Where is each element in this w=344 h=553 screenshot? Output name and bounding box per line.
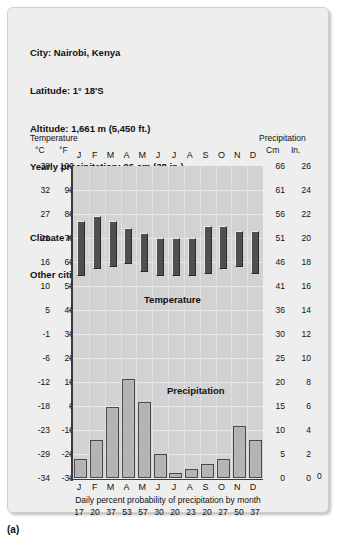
month-label-top: O (214, 150, 228, 160)
inches-tick: 4 (289, 425, 311, 435)
cm-tick: 61 (263, 185, 285, 195)
gridline-vertical (216, 166, 217, 478)
temperature-range-bar (172, 238, 180, 276)
month-label-bottom: M (104, 482, 118, 492)
precipitation-annotation: Precipitation (167, 385, 225, 396)
month-label-top: J (167, 150, 181, 160)
cm-tick: 66 (263, 161, 285, 171)
probability-value: 20 (167, 507, 183, 517)
temperature-range-bar (93, 216, 101, 269)
celsius-tick: 5 (28, 305, 50, 315)
inches-tick: 6 (289, 401, 311, 411)
climograph-panel: City: Nairobi, Kenya Latitude: 1° 18'S A… (7, 7, 329, 513)
gridline-vertical (89, 166, 90, 478)
cm-tick: 10 (263, 425, 285, 435)
probability-value: 20 (199, 507, 215, 517)
precipitation-bar (169, 473, 182, 478)
cm-tick: 5 (263, 449, 285, 459)
axis-tick-left (69, 166, 73, 167)
precipitation-bar (74, 459, 87, 478)
month-label-bottom: J (151, 482, 165, 492)
month-label-top: M (104, 150, 118, 160)
celsius-unit-label: °C (35, 145, 45, 155)
month-label-bottom: F (88, 482, 102, 492)
month-label-top: M (135, 150, 149, 160)
axis-tick-left (69, 358, 73, 359)
temperature-range-bar (109, 221, 117, 267)
precipitation-bar (185, 469, 198, 478)
temperature-range-bar (188, 238, 196, 276)
celsius-tick: 32 (28, 185, 50, 195)
month-label-top: N (230, 150, 244, 160)
cm-tick: 0 (263, 473, 285, 483)
month-label-bottom: J (167, 482, 181, 492)
inches-tick: 2 (289, 449, 311, 459)
gridline-vertical (200, 166, 201, 478)
temperature-range-bar (235, 231, 243, 267)
month-label-bottom: S (199, 482, 213, 492)
probability-value: 57 (135, 507, 151, 517)
celsius-tick: 27 (28, 209, 50, 219)
plot-area (71, 166, 263, 480)
probability-value: 53 (119, 507, 135, 517)
month-label-top: S (199, 150, 213, 160)
axis-tick-left (69, 190, 73, 191)
probability-value: 30 (151, 507, 167, 517)
probability-value: 37 (247, 507, 263, 517)
precipitation-bar (217, 459, 230, 478)
inches-tick: 20 (289, 233, 311, 243)
cm-tick: 25 (263, 353, 285, 363)
probability-value: 27 (215, 507, 231, 517)
left-axis-title: Temperature (30, 133, 78, 143)
celsius-tick: -12 (28, 377, 50, 387)
inches-tick: 26 (289, 161, 311, 171)
temperature-range-bar (140, 233, 148, 271)
month-label-bottom: J (72, 482, 86, 492)
axis-tick-left (69, 334, 73, 335)
celsius-tick: -34 (28, 473, 50, 483)
month-label-top: A (119, 150, 133, 160)
city-line: City: Nairobi, Kenya (30, 47, 254, 60)
cm-tick: 20 (263, 377, 285, 387)
month-label-top: J (72, 150, 86, 160)
cm-tick: 36 (263, 305, 285, 315)
precipitation-bar (90, 440, 103, 478)
axis-tick-left (69, 238, 73, 239)
celsius-tick: -6 (28, 353, 50, 363)
probability-caption: Daily percent probability of precipitati… (8, 495, 328, 505)
cm-tick: 41 (263, 281, 285, 291)
axis-tick-left (69, 214, 73, 215)
temperature-range-bar (156, 238, 164, 276)
figure-label: (a) (7, 524, 19, 535)
inches-tick: 0 (289, 473, 311, 483)
precipitation-bar (138, 402, 151, 478)
gridline-vertical (247, 166, 248, 478)
month-label-bottom: D (246, 482, 260, 492)
inches-tick: 10 (289, 353, 311, 363)
gridline-vertical (184, 166, 185, 478)
gridline-vertical (152, 166, 153, 478)
precipitation-bar (106, 407, 119, 478)
cm-tick: 30 (263, 329, 285, 339)
month-label-top: J (151, 150, 165, 160)
temperature-annotation: Temperature (144, 294, 201, 305)
celsius-tick: 16 (28, 257, 50, 267)
latitude-line: Latitude: 1° 18'S (30, 85, 254, 98)
inches-tick: 24 (289, 185, 311, 195)
right-axis-title: Precipitation (259, 133, 306, 143)
axis-tick-left (69, 454, 73, 455)
inches-tick: 12 (289, 329, 311, 339)
celsius-tick: 38 (28, 161, 50, 171)
month-label-bottom: N (230, 482, 244, 492)
inches-tick: 16 (289, 281, 311, 291)
month-label-top: A (183, 150, 197, 160)
probability-value: 23 (183, 507, 199, 517)
probability-value: 20 (87, 507, 103, 517)
month-label-top: F (88, 150, 102, 160)
celsius-tick: -18 (28, 401, 50, 411)
temperature-range-bar (204, 226, 212, 274)
probability-value: 37 (103, 507, 119, 517)
celsius-tick: -1 (28, 329, 50, 339)
month-label-bottom: A (183, 482, 197, 492)
axis-tick-left (69, 286, 73, 287)
